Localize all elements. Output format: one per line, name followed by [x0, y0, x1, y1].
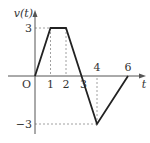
y-tick-label: 3: [25, 22, 32, 35]
x-axis-label: t: [142, 78, 147, 91]
x-tick-label: 3: [80, 78, 87, 91]
labels: 123463−3Otv(t): [14, 7, 147, 131]
y-tick-label: −3: [16, 118, 32, 131]
velocity-time-graph: 123463−3Otv(t): [0, 0, 150, 143]
x-tick-label: 4: [94, 61, 101, 74]
y-axis-label: v(t): [14, 7, 33, 20]
origin-label: O: [22, 78, 31, 91]
x-tick-label: 6: [125, 61, 132, 74]
x-tick-label: 2: [63, 78, 70, 91]
y-axis-arrow: [33, 10, 38, 17]
x-tick-label: 1: [47, 78, 54, 91]
